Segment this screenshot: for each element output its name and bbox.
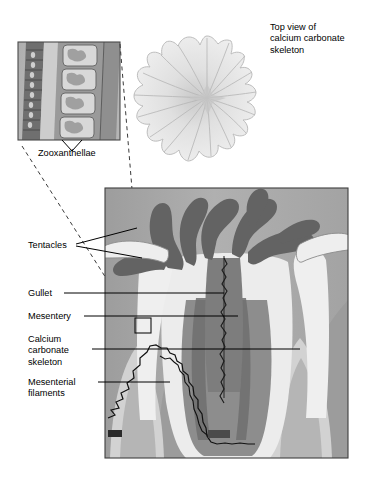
label-calcium-carbonate-skeleton: Calcium carbonate skeleton: [28, 334, 88, 368]
label-mesenterial-filaments: Mesenterial filaments: [28, 377, 94, 400]
filament-base-center: [208, 430, 230, 438]
filament-base-left: [108, 430, 122, 437]
label-zooxanthellae: Zooxanthellae: [38, 148, 96, 159]
label-gullet: Gullet: [28, 288, 52, 299]
label-tentacles: Tentacles: [28, 240, 67, 251]
top-view-caption: Top view of calcium carbonate skeleton: [270, 22, 370, 56]
tissue-cell-inset-group: [18, 42, 120, 151]
skeleton-top-view-group: [134, 36, 256, 161]
figure-canvas: Top view of calcium carbonate skeleton Z…: [0, 0, 372, 486]
label-mesentery: Mesentery: [28, 311, 71, 322]
